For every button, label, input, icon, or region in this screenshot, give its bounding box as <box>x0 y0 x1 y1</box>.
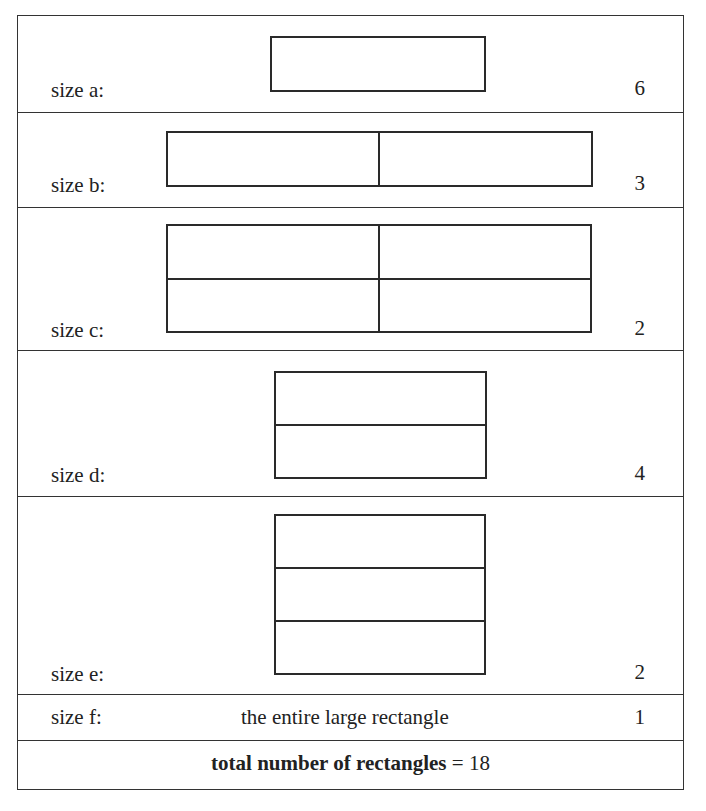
total-line: total number of rectangles = 18 <box>18 751 683 776</box>
size-label: size a: <box>51 78 104 103</box>
row-size-d: size d: 4 <box>18 351 683 497</box>
size-label: size c: <box>51 318 104 343</box>
size-label: size b: <box>51 173 105 198</box>
size-count: 6 <box>635 76 646 101</box>
equals-sign: = <box>452 751 464 775</box>
divider <box>378 133 380 185</box>
rectangle-size-d <box>274 371 487 479</box>
rectangle-size-a <box>270 36 486 92</box>
row-size-a: size a: 6 <box>18 16 683 113</box>
size-label: size f: <box>51 705 102 730</box>
rectangle-size-c <box>166 224 592 333</box>
total-value: 18 <box>469 751 490 775</box>
divider <box>276 620 484 622</box>
size-count: 3 <box>635 171 646 196</box>
row-total: total number of rectangles = 18 <box>18 741 683 791</box>
divider <box>168 278 590 280</box>
size-label: size d: <box>51 463 105 488</box>
size-count: 1 <box>635 705 646 730</box>
size-count: 4 <box>635 461 646 486</box>
size-label: size e: <box>51 662 104 687</box>
row-size-e: size e: 2 <box>18 497 683 695</box>
size-count: 2 <box>635 660 646 685</box>
total-label: total number of rectangles <box>211 751 446 775</box>
rectangle-size-e <box>274 514 486 675</box>
rectangle-size-b <box>166 131 593 187</box>
divider <box>276 567 484 569</box>
size-count: 2 <box>635 316 646 341</box>
rectangle-count-table: size a: 6 size b: 3 size c: 2 size d: 4 … <box>17 15 684 790</box>
row-size-c: size c: 2 <box>18 208 683 351</box>
divider <box>276 424 485 426</box>
size-description: the entire large rectangle <box>241 705 449 730</box>
row-size-f: size f: the entire large rectangle 1 <box>18 695 683 741</box>
row-size-b: size b: 3 <box>18 113 683 208</box>
